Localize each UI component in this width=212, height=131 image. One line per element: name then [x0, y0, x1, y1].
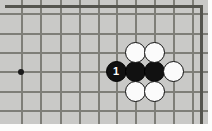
page-margin-bottom: [0, 124, 212, 131]
stone-white-5[interactable]: [125, 81, 146, 102]
grid-line-vertical-4: [98, 0, 100, 124]
star-point-0: [18, 69, 24, 75]
stone-black-1[interactable]: [125, 61, 146, 82]
go-diagram-screenshot: 1: [0, 0, 212, 131]
stone-black-2[interactable]: [144, 61, 165, 82]
stone-white-7[interactable]: [163, 61, 184, 82]
stone-white-6[interactable]: [144, 81, 165, 102]
stone-white-4[interactable]: [144, 42, 165, 63]
board-edge-right: [200, 5, 203, 124]
grid-line-vertical-1: [40, 0, 42, 124]
grid-line-vertical-0: [21, 0, 23, 124]
go-board[interactable]: 1: [0, 0, 208, 124]
grid-line-vertical-9: [192, 0, 194, 124]
grid-line-horizontal-4: [0, 91, 208, 93]
board-edge-top: [5, 5, 203, 8]
stone-white-3[interactable]: [125, 42, 146, 63]
stone-move-number: 1: [113, 65, 119, 76]
stone-black-move-1[interactable]: 1: [106, 61, 127, 82]
grid-line-horizontal-0: [0, 13, 208, 15]
grid-line-horizontal-5: [0, 110, 208, 112]
grid-line-horizontal-2: [0, 52, 208, 54]
page-margin-right: [208, 0, 212, 131]
grid-line-horizontal-1: [0, 33, 208, 35]
grid-line-vertical-3: [79, 0, 81, 124]
grid-line-vertical-2: [60, 0, 62, 124]
